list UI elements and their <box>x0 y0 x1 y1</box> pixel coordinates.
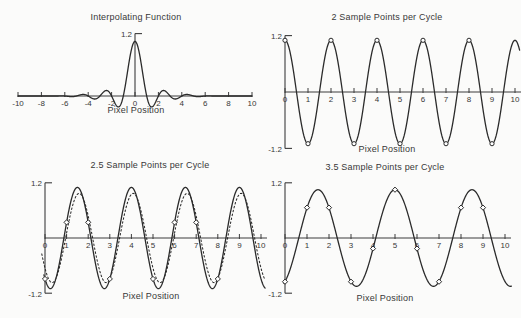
svg-text:5: 5 <box>398 95 403 104</box>
svg-text:-8: -8 <box>38 99 46 108</box>
svg-text:9: 9 <box>481 241 486 250</box>
svg-text:5: 5 <box>393 241 398 250</box>
svg-text:10: 10 <box>501 241 510 250</box>
svg-text:9: 9 <box>237 241 242 250</box>
plot2-title: 2 Sample Points per Cycle <box>331 12 442 22</box>
svg-text:1: 1 <box>306 95 311 104</box>
svg-text:-6: -6 <box>61 99 69 108</box>
plot4-title: 3.5 Sample Points per Cycle <box>326 162 445 172</box>
svg-text:1.2: 1.2 <box>271 179 283 188</box>
svg-text:-10: -10 <box>12 99 24 108</box>
svg-text:2: 2 <box>327 241 332 250</box>
plot2-xaxis-label: Pixel Position <box>359 144 416 154</box>
svg-text:-1.2: -1.2 <box>28 290 42 299</box>
svg-text:4: 4 <box>129 241 134 250</box>
svg-text:1.2: 1.2 <box>121 30 133 39</box>
svg-text:3: 3 <box>352 95 357 104</box>
plot1-xaxis-label: Pixel Position <box>108 105 165 115</box>
svg-text:10: 10 <box>511 95 520 104</box>
svg-text:6: 6 <box>203 99 208 108</box>
svg-text:2: 2 <box>329 95 334 104</box>
svg-text:4: 4 <box>375 95 380 104</box>
svg-text:6: 6 <box>421 95 426 104</box>
plot-3-5-sample-points-per-cycle: 0123456789101.2-1.2 <box>258 166 521 312</box>
svg-text:1: 1 <box>305 241 310 250</box>
svg-text:7: 7 <box>444 95 449 104</box>
svg-text:1.2: 1.2 <box>31 179 43 188</box>
svg-text:8: 8 <box>467 95 472 104</box>
svg-text:2: 2 <box>86 241 91 250</box>
svg-text:6: 6 <box>172 241 177 250</box>
plot-2-sample-points-per-cycle: 0123456789101.2-1.2 <box>258 24 521 158</box>
svg-text:3: 3 <box>108 241 113 250</box>
svg-text:-1.2: -1.2 <box>268 290 282 299</box>
svg-text:7: 7 <box>437 241 442 250</box>
svg-text:9: 9 <box>490 95 495 104</box>
plot4-xaxis-label: Pixel Position <box>357 293 414 303</box>
svg-text:4: 4 <box>180 99 185 108</box>
svg-text:-1.2: -1.2 <box>268 145 282 154</box>
plot1-title: Interpolating Function <box>91 12 182 22</box>
plot3-xaxis-label: Pixel Position <box>123 291 180 301</box>
svg-text:3: 3 <box>349 241 354 250</box>
svg-text:8: 8 <box>226 99 231 108</box>
svg-text:1: 1 <box>64 241 69 250</box>
svg-text:8: 8 <box>459 241 464 250</box>
svg-text:8: 8 <box>216 241 221 250</box>
svg-text:1.2: 1.2 <box>271 32 283 41</box>
svg-text:-4: -4 <box>85 99 93 108</box>
svg-text:5: 5 <box>151 241 156 250</box>
svg-text:7: 7 <box>194 241 199 250</box>
figure-sampling-interpolation: -10-8-6-4-202468101.2 0123456789101.2-1.… <box>0 0 521 318</box>
svg-text:10: 10 <box>248 99 257 108</box>
plot3-title: 2.5 Sample Points per Cycle <box>91 160 210 170</box>
